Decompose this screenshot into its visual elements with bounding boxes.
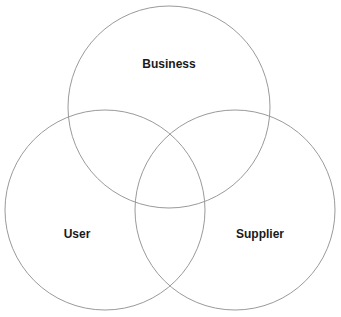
supplier-label: Supplier bbox=[236, 227, 284, 241]
business-label: Business bbox=[142, 57, 196, 71]
business-circle bbox=[68, 6, 270, 208]
venn-diagram: Business User Supplier bbox=[0, 0, 341, 317]
supplier-circle bbox=[135, 110, 335, 310]
user-label: User bbox=[64, 227, 91, 241]
user-circle bbox=[5, 110, 205, 310]
venn-svg: Business User Supplier bbox=[0, 0, 341, 317]
